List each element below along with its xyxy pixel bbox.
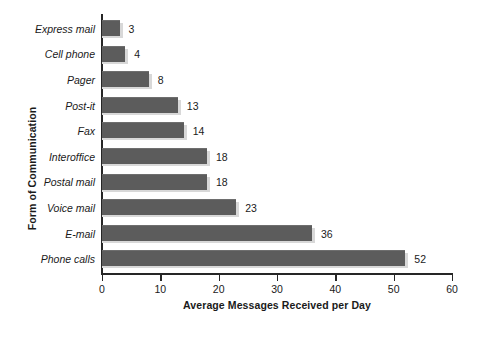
bar <box>102 174 207 189</box>
bar <box>102 199 236 214</box>
bar-fill <box>102 199 236 215</box>
bar-value-label: 8 <box>158 74 164 86</box>
bar-value-label: 52 <box>414 253 426 265</box>
bar-fill <box>102 20 120 36</box>
x-axis-tick <box>335 275 336 281</box>
x-axis-tick-label: 30 <box>257 283 297 295</box>
bar <box>102 20 120 35</box>
category-label: Pager <box>67 74 95 86</box>
bar-row: Express mail3 <box>102 16 452 42</box>
x-axis-tick <box>277 275 278 281</box>
bar-fill <box>102 97 178 113</box>
x-axis-tick <box>219 275 220 281</box>
bar <box>102 97 178 112</box>
bar-value-label: 3 <box>129 23 135 35</box>
bar-fill <box>102 250 405 266</box>
category-label: Phone calls <box>41 253 95 265</box>
x-axis-tick-label: 40 <box>315 283 355 295</box>
x-axis-title: Average Messages Received per Day <box>102 299 452 311</box>
x-axis-tick-label: 50 <box>374 283 414 295</box>
x-axis-tick-label: 0 <box>82 283 122 295</box>
bar <box>102 225 312 240</box>
bar-fill <box>102 225 312 241</box>
bar-value-label: 18 <box>216 176 228 188</box>
bar-row: Pager8 <box>102 67 452 93</box>
bar-value-label: 18 <box>216 151 228 163</box>
category-label: Express mail <box>35 23 95 35</box>
bar <box>102 122 184 137</box>
category-label: Postal mail <box>44 176 95 188</box>
bar-row: E-mail36 <box>102 221 452 247</box>
x-axis-tick <box>160 275 161 281</box>
bar-row: Fax14 <box>102 118 452 144</box>
y-axis-title: Form of Communication <box>22 0 42 337</box>
bar <box>102 148 207 163</box>
x-axis-tick-label: 20 <box>199 283 239 295</box>
category-label: Cell phone <box>45 48 95 60</box>
x-axis-tick <box>394 275 395 281</box>
category-label: Voice mail <box>47 202 95 214</box>
bar-value-label: 4 <box>134 48 140 60</box>
x-axis-tick <box>102 275 103 281</box>
bar-row: Postal mail18 <box>102 170 452 196</box>
bar-fill <box>102 148 207 164</box>
bar-value-label: 13 <box>187 100 199 112</box>
category-label: Interoffice <box>49 151 95 163</box>
category-label: E-mail <box>65 228 95 240</box>
bar <box>102 46 125 61</box>
bar-fill <box>102 122 184 138</box>
bar-value-label: 36 <box>321 228 333 240</box>
bar-fill <box>102 71 149 87</box>
bar-row: Phone calls52 <box>102 246 452 272</box>
bar-row: Interoffice18 <box>102 144 452 170</box>
bar-value-label: 14 <box>193 125 205 137</box>
bar-fill <box>102 46 125 62</box>
x-axis-tick <box>452 275 453 281</box>
x-axis-tick-label: 10 <box>140 283 180 295</box>
x-axis-tick-label: 60 <box>432 283 472 295</box>
bar <box>102 71 149 86</box>
bar <box>102 250 405 265</box>
bar-value-label: 23 <box>245 202 257 214</box>
bar-row: Post-it13 <box>102 93 452 119</box>
category-label: Fax <box>77 125 95 137</box>
bar-row: Cell phone4 <box>102 42 452 68</box>
bar-row: Voice mail23 <box>102 195 452 221</box>
bar-fill <box>102 174 207 190</box>
bar-chart: Form of Communication 0102030405060 Expr… <box>0 0 482 337</box>
category-label: Post-it <box>65 100 95 112</box>
